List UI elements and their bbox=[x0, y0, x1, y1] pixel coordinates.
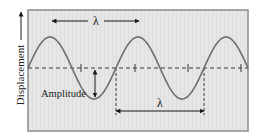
y-axis-label: Displacement bbox=[14, 45, 26, 105]
plot-panel bbox=[28, 10, 248, 131]
wavelength-label-bottom: λ bbox=[157, 96, 163, 110]
y-axis: Displacement bbox=[14, 12, 26, 105]
amplitude-label: Amplitude bbox=[41, 88, 86, 99]
wavelength-label-top: λ bbox=[93, 14, 99, 28]
wave-diagram: Displacement λ λ Amplitude bbox=[0, 0, 259, 137]
